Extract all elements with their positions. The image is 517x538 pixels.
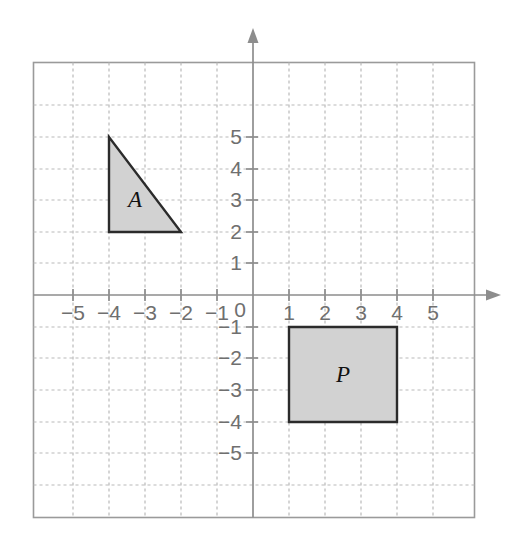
origin-label: 0 bbox=[234, 298, 246, 321]
x-tick-label--4: −4 bbox=[97, 301, 121, 324]
x-tick-label--3: −3 bbox=[133, 301, 157, 324]
y-tick-label-4: 4 bbox=[230, 157, 242, 180]
x-tick-label--5: −5 bbox=[61, 301, 85, 324]
coordinate-plane-figure: 5 4 3 2 1 −1 −2 −3 −4 −5 −5 −4 −3 −2 −1 … bbox=[0, 0, 517, 538]
x-axis-arrow-icon bbox=[486, 290, 501, 301]
y-tick-label--4: −4 bbox=[218, 410, 242, 433]
x-tick-label--1: −1 bbox=[205, 301, 229, 324]
x-tick-label-3: 3 bbox=[355, 301, 367, 324]
y-tick-label-3: 3 bbox=[230, 188, 242, 211]
square-p-label: P bbox=[335, 362, 350, 387]
y-tick-label-5: 5 bbox=[230, 125, 242, 148]
x-tick-label-4: 4 bbox=[391, 301, 403, 324]
shape-square-p: P bbox=[289, 327, 397, 422]
y-tick-label--3: −3 bbox=[218, 378, 242, 401]
x-tick-label-1: 1 bbox=[283, 301, 295, 324]
x-tick-label-2: 2 bbox=[319, 301, 331, 324]
x-tick-label--2: −2 bbox=[169, 301, 193, 324]
y-axis-arrow-icon bbox=[248, 28, 259, 43]
triangle-a-label: A bbox=[126, 187, 143, 212]
x-tick-label-5: 5 bbox=[427, 301, 439, 324]
y-tick-label--2: −2 bbox=[218, 346, 242, 369]
plot-frame bbox=[34, 63, 475, 518]
y-tick-label-1: 1 bbox=[230, 251, 242, 274]
coordinate-grid-svg: 5 4 3 2 1 −1 −2 −3 −4 −5 −5 −4 −3 −2 −1 … bbox=[0, 0, 517, 538]
y-tick-label-2: 2 bbox=[230, 220, 242, 243]
y-tick-label--5: −5 bbox=[218, 441, 242, 464]
